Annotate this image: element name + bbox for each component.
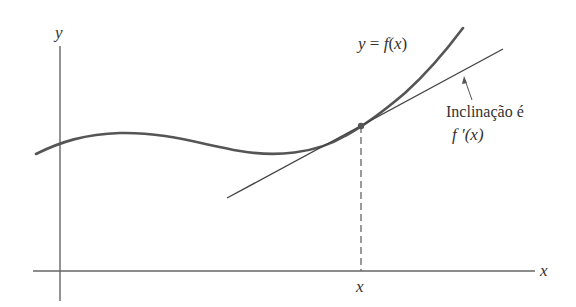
arrowhead-icon (462, 76, 467, 84)
tangent-diagram: y x y = f(x) Inclinação é f ′(x) x (0, 0, 576, 307)
x-axis-label: x (539, 261, 548, 280)
slope-annotation-line1: Inclinação é (446, 103, 524, 121)
curve-label: y = f(x) (356, 34, 407, 53)
slope-annotation-line2: f ′(x) (452, 125, 484, 144)
y-axis-label: y (53, 23, 63, 42)
tangent-line (227, 49, 503, 198)
tangent-point (358, 123, 364, 129)
point-x-label: x (355, 277, 364, 296)
